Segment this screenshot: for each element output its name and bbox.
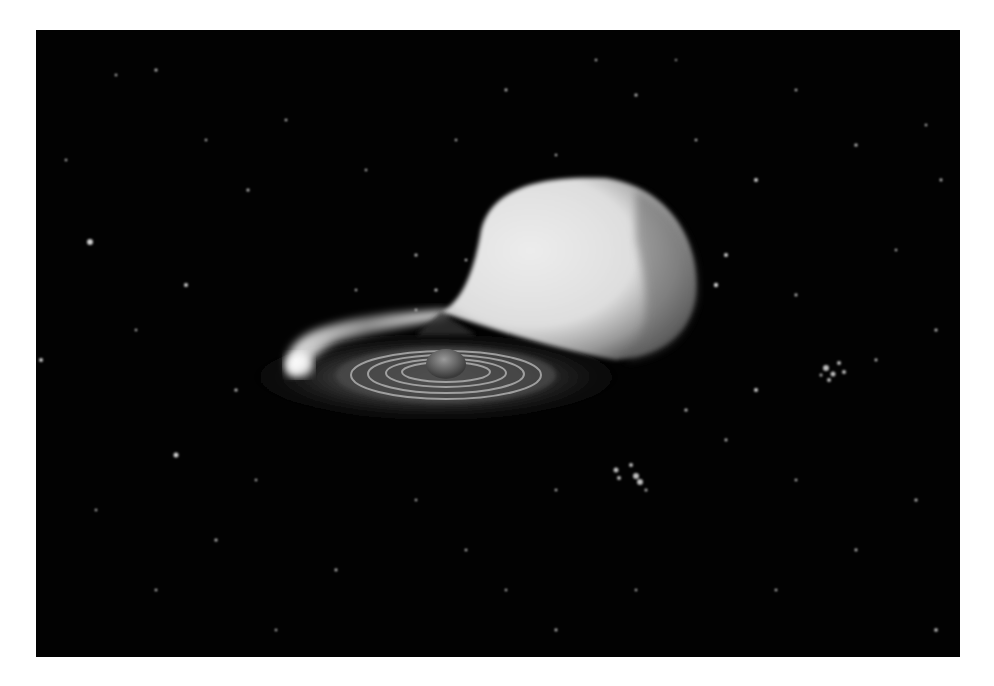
- star-cluster-right: [820, 361, 847, 382]
- compact-star: [426, 349, 466, 379]
- star-cluster-lower: [614, 463, 648, 492]
- space-image: [36, 30, 960, 657]
- hot-spot: [285, 353, 313, 377]
- donor-star: [441, 178, 697, 360]
- binary-star-illustration: [36, 30, 960, 657]
